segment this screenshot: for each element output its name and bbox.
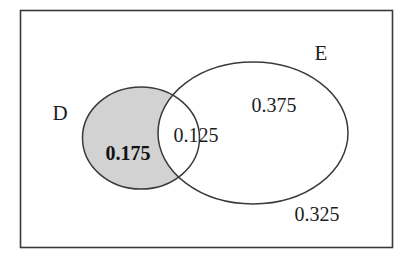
venn-diagram-canvas: D E 0.175 0.125 0.375 0.325: [0, 0, 409, 261]
region-d-only-value: 0.175: [106, 142, 151, 164]
region-e-only-value: 0.375: [252, 94, 297, 116]
region-complement-value: 0.325: [295, 203, 340, 225]
set-d-label: D: [52, 101, 67, 125]
set-e-label: E: [315, 41, 328, 65]
venn-diagram-figure: D E 0.175 0.125 0.375 0.325: [0, 0, 409, 261]
region-intersection-value: 0.125: [174, 124, 219, 146]
